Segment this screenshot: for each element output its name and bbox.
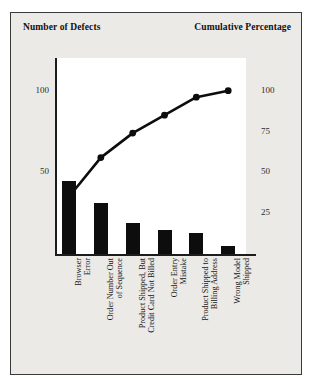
category-label: Browser Error [74,258,93,370]
y-tick-label: 100 [36,85,50,95]
x-axis-line [55,254,256,256]
data-point [161,112,168,119]
cumulative-line-series [55,58,246,254]
cumulative-markers [66,87,232,200]
y2-tick-label: 50 [261,166,270,176]
right-axis-ticks: 255075100 [261,13,301,374]
category-label: Order Entry Mistake [170,258,189,370]
plot-area [55,58,246,254]
category-label: Product Shipped to Billing Address [201,258,220,370]
data-point [129,130,136,137]
y2-tick-label: 75 [261,126,270,136]
data-point [225,87,232,94]
data-point [193,94,200,101]
y-axis-line [55,58,57,255]
left-axis-ticks: 50100 [17,13,49,374]
category-label: Product Shipped, But Credit Card Not Bil… [138,258,157,370]
category-label: Wrong Model Shipped [233,258,252,370]
cumulative-line [69,91,228,197]
category-labels: Browser ErrorOrder Number Out of Sequenc… [55,258,256,370]
y2-tick-label: 100 [261,85,275,95]
category-label: Order Number Out of Sequence [106,258,125,370]
pareto-chart-figure: Number of Defects Cumulative Percentage … [10,12,302,375]
data-point [97,154,104,161]
data-point [66,193,73,200]
y2-tick-label: 25 [261,207,270,217]
y-tick-label: 50 [40,166,49,176]
